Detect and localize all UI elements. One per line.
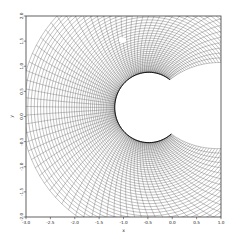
mesh-plot: -3.0-2.5-2.0-1.5-1.0-0.50.00.51.0-2.0-1.… xyxy=(0,0,237,249)
x-tick-label: 0.0 xyxy=(169,220,176,225)
mesh-circumferential-line xyxy=(47,2,237,213)
mesh-circumferential-line xyxy=(58,14,230,201)
mesh-radial-line xyxy=(160,28,237,74)
mesh-radial-line xyxy=(51,23,119,90)
x-tick-label: -1.5 xyxy=(95,220,104,225)
mesh-radial-line xyxy=(153,142,224,213)
mesh-radial-line xyxy=(21,106,115,107)
figure-canvas: -3.0-2.5-2.0-1.5-1.0-0.50.00.51.0-2.0-1.… xyxy=(0,0,237,249)
x-tick-label: 0.5 xyxy=(193,220,200,225)
y-tick-label: -1.5 xyxy=(19,187,24,196)
mesh-circumferential-line xyxy=(109,66,176,148)
mesh-radial-line xyxy=(146,0,195,72)
axes-group xyxy=(26,16,221,217)
y-axis-title: y xyxy=(9,115,14,118)
mesh-radial-line xyxy=(170,135,237,153)
mesh-circumferential-line xyxy=(64,20,224,195)
plot-border xyxy=(26,16,221,217)
mesh-circumferential-line xyxy=(44,0,237,216)
ticks-group: -3.0-2.5-2.0-1.5-1.0-0.50.00.51.0-2.0-1.… xyxy=(19,12,224,225)
mesh-group xyxy=(21,0,237,239)
mesh-radial-line xyxy=(162,140,237,181)
y-tick-label: 0.0 xyxy=(19,113,24,120)
mesh-radial-line xyxy=(134,0,152,74)
mesh-radial-line xyxy=(57,16,120,88)
x-tick-label: -2.5 xyxy=(46,220,55,225)
mesh-radial-line xyxy=(157,15,237,74)
mesh-radial-line xyxy=(62,128,122,203)
mesh-radial-line xyxy=(167,137,237,163)
mesh-radial-line xyxy=(152,0,219,72)
y-tick-label: -0.5 xyxy=(19,137,24,146)
mesh-radial-line xyxy=(36,45,117,94)
x-tick-label: -1.0 xyxy=(119,220,128,225)
mesh-radial-line xyxy=(140,0,170,73)
mesh-radial-line xyxy=(21,109,114,115)
mesh-radial-line xyxy=(32,118,117,159)
mesh-notch xyxy=(119,37,126,43)
y-tick-label: 1.0 xyxy=(19,63,24,70)
mesh-circumferential-line xyxy=(110,68,175,147)
mesh-radial-line xyxy=(144,0,187,73)
y-tick-label: 0.5 xyxy=(19,88,24,95)
mesh-circumferential-line xyxy=(67,23,221,193)
y-tick-label: -2.0 xyxy=(19,213,24,222)
mesh-radial-line xyxy=(167,53,237,78)
y-tick-label: 1.5 xyxy=(19,37,24,44)
y-tick-label: 2.0 xyxy=(19,12,24,19)
x-tick-label: -2.0 xyxy=(71,220,80,225)
x-tick-label: 1.0 xyxy=(218,220,225,225)
mesh-circumferential-line xyxy=(37,0,237,222)
mesh-radial-line xyxy=(63,10,121,87)
mesh-radial-line xyxy=(138,0,162,74)
x-axis-title: x xyxy=(122,228,125,233)
x-tick-label: -0.5 xyxy=(144,220,153,225)
mesh-radial-line xyxy=(40,122,118,176)
mesh-radial-line xyxy=(126,0,134,76)
y-tick-label: -1.0 xyxy=(19,162,24,171)
